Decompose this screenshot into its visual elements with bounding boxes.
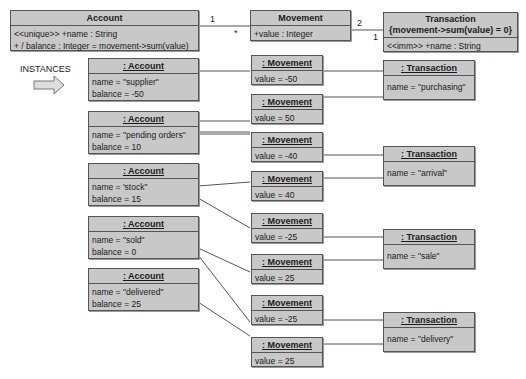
movement-instance: : Movement value = -25	[251, 295, 323, 325]
class-account-attr-name: <<unique>> +name : String	[14, 28, 195, 40]
class-account-attr-balance: + / balance : Integer = movement->sum(va…	[14, 40, 195, 52]
multiplicity-account-1: 1	[210, 14, 215, 24]
movement-instance: : Movement value = -40	[251, 132, 323, 162]
account-instance: : Account name = "pending orders"balance…	[88, 111, 199, 154]
class-movement: Movement +value : Integer	[250, 10, 351, 41]
class-account: Account <<unique>> +name : String + / ba…	[10, 10, 199, 51]
multiplicity-movement-star: *	[234, 28, 238, 38]
movement-instance: : Movement value = 40	[251, 171, 323, 201]
class-transaction-constraint: {movement->sum(value) = 0}	[384, 25, 517, 36]
movement-instance: : Movement value = -25	[251, 213, 323, 243]
instances-label: INSTANCES	[20, 64, 71, 74]
movement-instance: : Movement value = 50	[251, 94, 323, 124]
class-transaction-title: Transaction	[384, 14, 517, 25]
transaction-instance: : Transaction name = "delivery"	[383, 312, 475, 352]
class-transaction: Transaction {movement->sum(value) = 0} <…	[383, 12, 518, 52]
arrow-right-icon	[34, 76, 64, 94]
account-instance: : Account name = "delivered"balance = 25	[88, 268, 199, 311]
movement-instance: : Movement value = 25	[251, 337, 323, 367]
account-instance: : Account name = "supplier"balance = -50	[88, 58, 199, 101]
transaction-instance: : Transaction name = "purchasing"	[383, 60, 475, 100]
transaction-instance: : Transaction name = "sale"	[383, 229, 475, 269]
class-account-title: Account	[11, 11, 198, 26]
multiplicity-movement-1: 1	[373, 32, 378, 42]
transaction-instance: : Transaction name = "arrival"	[383, 146, 475, 186]
account-instance: : Account name = "sold"balance = 0	[88, 216, 199, 259]
class-transaction-attr-name: <<imm>> +name : String	[384, 38, 517, 54]
class-movement-attr-value: +value : Integer	[251, 26, 350, 42]
multiplicity-transaction-2: 2	[357, 18, 362, 28]
class-movement-title: Movement	[251, 11, 350, 26]
account-instance: : Account name = 'stock"balance = 15	[88, 163, 199, 206]
movement-instance: : Movement value = 25	[251, 254, 323, 284]
movement-instance: : Movement value = -50	[251, 55, 323, 85]
